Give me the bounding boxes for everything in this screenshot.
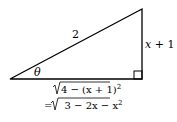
right-angle-marker <box>134 71 142 79</box>
opposite-side-label: x + 1 <box>145 39 174 50</box>
hypotenuse-label: 2 <box>72 29 79 40</box>
adjacent-side-label-line1: 4 − (x + 1)2 <box>61 84 121 95</box>
triangle <box>10 9 142 79</box>
right-triangle-diagram: 2 x + 1 θ 4 − (x + 1)2 = 3 − 2x − x2 <box>0 0 177 122</box>
adjacent-side-label-line2: = 3 − 2x − x2 <box>44 100 123 111</box>
angle-theta-label: θ <box>34 67 41 78</box>
